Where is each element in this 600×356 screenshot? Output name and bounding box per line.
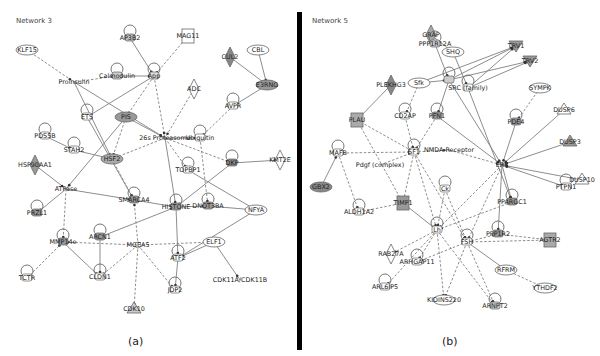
edge [445,189,467,242]
network-node[interactable]: SF1 [408,139,420,156]
network-node[interactable]: RFRM [495,265,517,275]
node-label: TRV1 [507,42,524,50]
network-node[interactable]: PDS5B [34,123,55,140]
node-label: ATF2 [170,254,186,262]
network-node[interactable]: KLF15 [16,45,38,55]
network-node[interactable]: ARCN1 [89,224,111,241]
network-node[interactable]: DUSP6 [553,103,575,114]
node-label: PRZL1 [27,209,47,217]
node-label: SMARCA4 [119,196,150,204]
network-node[interactable]: AGTR2 [539,233,560,247]
node-label: PFN1 [429,112,445,120]
network-node[interactable]: KIDINS220 [427,295,461,305]
network-node[interactable]: PPARGC1 [497,189,527,206]
node-label: Ubiquitin [186,134,215,142]
network-node[interactable]: DNOT3BA [192,193,224,210]
node-label: HSF2 [104,155,121,163]
edge [200,106,233,138]
node-label: CBL [252,46,265,54]
network-node[interactable]: Pdgf (complex) [356,161,404,169]
network-node[interactable]: PDE4 [508,109,525,126]
network-node[interactable]: SMARCA4 [119,187,150,204]
network-node[interactable]: App [148,63,161,80]
edge [112,117,126,159]
network-node[interactable]: MMP14e [50,229,77,246]
node-label: FSH [461,238,474,246]
network-node[interactable]: Proinsulin [59,78,90,86]
network-node[interactable]: Sfk [408,78,430,88]
network-node[interactable]: TCTR [18,265,36,282]
network-node[interactable]: SHQ [442,47,464,57]
network-node[interactable]: E3RNG [256,80,278,90]
network-node[interactable]: CDK10 [123,302,145,313]
network-node[interactable]: FSH [461,229,474,246]
node-label: KLF15 [17,46,37,54]
network-node[interactable]: GBX2 [310,182,332,192]
network-node[interactable]: HSF2 [101,154,123,164]
network-node[interactable]: ARHGAP11 [400,249,435,266]
network-node[interactable]: ERK [496,161,509,169]
network-node[interactable]: PLAU [349,113,366,127]
network-node[interactable]: PPP1R2 [486,221,510,238]
panel-caption: (b) [442,335,458,348]
network-node[interactable]: 26s Proteasome [139,134,190,142]
network-node[interactable]: CBL [247,45,269,55]
network-node[interactable]: PLEKHG3 [376,75,405,95]
node-label: KIDINS220 [427,296,461,304]
edge [403,152,414,203]
network-node[interactable]: YTHDF2 [531,283,557,293]
network-node[interactable]: HSP90AA1 [18,155,52,175]
network-node[interactable]: PFN1 [429,103,445,120]
network-node[interactable]: ARL6IP5 [372,274,398,291]
network-node[interactable]: JDP2 [167,277,183,294]
node-label: CDK10 [123,305,145,313]
network-node[interactable]: CDK11A/CDK11B [213,276,267,284]
network-node[interactable]: MAFB [329,140,347,157]
network-node[interactable]: MGEA5 [127,241,150,249]
network-node[interactable]: Ubiquitin [186,125,215,142]
node-label: ELF1 [206,238,221,246]
network-node[interactable]: CD2AP [394,103,416,120]
network-node[interactable]: DKP [226,150,239,167]
network-node[interactable]: ETS [81,104,93,121]
network-node[interactable]: DUSP3 [559,135,581,146]
network-node[interactable]: ALDH1A2 [344,199,374,216]
network-node[interactable]: Calmodulin [99,63,135,80]
network-node[interactable]: AP3B2 [120,25,141,42]
node-label: MAG11 [177,32,200,40]
network-node[interactable]: ARNPT2 [482,293,507,310]
network-node[interactable]: Ck [439,176,451,193]
edge [134,245,138,309]
network-node[interactable]: CUL2 [222,47,239,67]
edge [437,230,444,300]
network-node[interactable]: NMDA Receptor [424,146,475,154]
node-label: NMDA Receptor [424,146,475,154]
network-node[interactable]: TRV1 [507,41,524,52]
network-node[interactable]: HISTONE [162,194,191,211]
edge [126,76,154,117]
node-label: ADC [187,85,201,93]
network-node[interactable]: KMT2E [269,150,291,170]
network-node[interactable]: AVPR [225,93,242,110]
network-node[interactable]: SYMPK [529,83,552,93]
node-label: Pdgf (complex) [356,161,404,169]
network-node[interactable]: PRZL1 [27,200,47,217]
network-node[interactable]: TOPBP1 [174,157,200,174]
network-panel-a: Network 3 KLF15AP3B2MAG11CUL2CBLProinsul… [0,0,298,356]
node-label: RFRM [497,266,515,274]
network-node[interactable]: ATPase [55,185,78,193]
node-label: ATPase [55,185,78,193]
node-label: DKP [226,159,239,167]
edge [444,242,467,300]
node-label: CUL2 [222,53,239,61]
edge [214,242,240,280]
network-node[interactable]: MAG11 [177,29,200,43]
network-node[interactable]: ELF1 [203,237,225,247]
network-node[interactable]: TRV2 [521,56,538,67]
network-node[interactable]: PIS [115,112,137,122]
node-label: MAFB [329,149,347,157]
node-label: SF1 [408,148,420,156]
network-node[interactable]: STAH2 [64,137,85,154]
network-node[interactable]: NFYA [245,205,267,215]
network-node[interactable]: ADC [187,79,201,99]
